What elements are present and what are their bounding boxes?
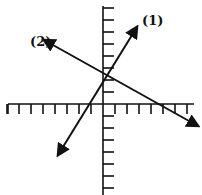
line-1 — [58, 27, 137, 155]
y-axis-ticks — [103, 8, 114, 188]
line-2-label: (2) — [30, 34, 51, 49]
line-1-label: (1) — [142, 13, 163, 28]
coordinate-diagram: (1) (2) — [0, 0, 202, 195]
plotted-lines — [44, 27, 198, 155]
